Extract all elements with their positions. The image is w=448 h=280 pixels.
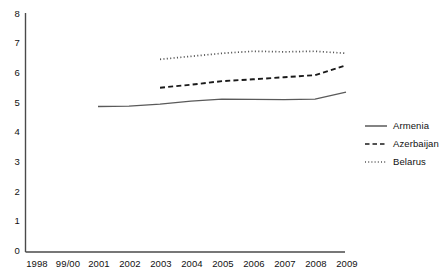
series-line-belarus	[160, 51, 346, 59]
y-tick-1: 1	[4, 215, 20, 226]
y-tick-0: 0	[4, 245, 20, 256]
legend-label-armenia: Armenia	[393, 120, 429, 131]
y-tick-5: 5	[4, 97, 20, 108]
legend-line-solid-icon	[365, 121, 387, 131]
legend-label-belarus: Belarus	[393, 156, 426, 167]
y-tick-6: 6	[4, 67, 20, 78]
legend-item-belarus[interactable]: Belarus	[365, 155, 447, 168]
series-line-armenia	[98, 92, 346, 106]
x-tick-2009: 2009	[327, 258, 367, 269]
legend-item-azerbaijan[interactable]: Azerbaijan	[365, 137, 447, 150]
legend-label-azerbaijan: Azerbaijan	[393, 138, 439, 149]
legend-line-dotted-icon	[365, 157, 387, 167]
y-tick-2: 2	[4, 186, 20, 197]
cropped-caption	[62, 270, 232, 280]
series-line-azerbaijan	[160, 65, 346, 87]
y-tick-7: 7	[4, 37, 20, 48]
y-tick-3: 3	[4, 156, 20, 167]
legend-item-armenia[interactable]: Armenia	[365, 119, 447, 132]
y-tick-4: 4	[4, 126, 20, 137]
series-layer	[98, 51, 346, 106]
y-tick-8: 8	[4, 8, 20, 19]
chart-legend: Armenia Azerbaijan Belarus	[365, 119, 447, 173]
line-chart: 8 7 6 5 4 3 2 1 0 1998 99/00 2001 2002 2…	[0, 0, 448, 280]
legend-line-dashed-icon	[365, 139, 387, 149]
